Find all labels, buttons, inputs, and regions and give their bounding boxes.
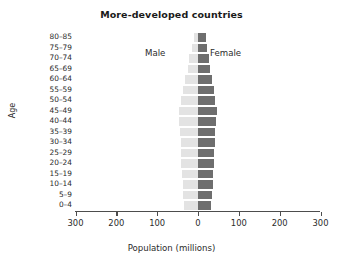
bar-female-30-34 xyxy=(198,137,216,148)
pyramid-row xyxy=(75,53,320,64)
bar-female-5-9 xyxy=(198,190,213,201)
bar-female-75-79 xyxy=(198,43,208,54)
bar-male-20-24 xyxy=(180,158,198,169)
y-tick-label: 70–74 xyxy=(12,53,72,64)
y-tick-label: 25–29 xyxy=(12,148,72,159)
x-tick-mark xyxy=(280,212,281,216)
y-tick-label: 15–19 xyxy=(12,169,72,180)
pyramid-row xyxy=(75,169,320,180)
bar-female-70-74 xyxy=(198,53,210,64)
y-tick-label: 30–34 xyxy=(12,137,72,148)
y-tick-label: 20–24 xyxy=(12,158,72,169)
y-tick-label: 50–54 xyxy=(12,95,72,106)
pyramid-row xyxy=(75,116,320,127)
series-label-female: Female xyxy=(210,48,241,58)
y-tick-label: 55–59 xyxy=(12,85,72,96)
x-tick-label: 200 xyxy=(260,218,300,228)
bar-female-80-85 xyxy=(198,32,207,43)
x-tick-mark xyxy=(239,212,240,216)
pyramid-row xyxy=(75,95,320,106)
pyramid-row xyxy=(75,85,320,96)
pyramid-row xyxy=(75,43,320,54)
y-tick-label: 5–9 xyxy=(12,190,72,201)
x-tick-label: 300 xyxy=(56,218,96,228)
y-tick-label: 60–64 xyxy=(12,74,72,85)
bar-female-60-64 xyxy=(198,74,213,85)
plot-area xyxy=(75,32,320,211)
x-axis-title: Population (millions) xyxy=(0,243,343,253)
bar-male-50-54 xyxy=(180,95,198,106)
bar-female-10-14 xyxy=(198,179,214,190)
x-tick-label: 0 xyxy=(178,218,218,228)
bar-male-35-39 xyxy=(179,127,198,138)
bar-male-5-9 xyxy=(182,190,198,201)
bar-female-45-49 xyxy=(198,106,218,117)
bar-male-25-29 xyxy=(180,148,198,159)
y-tick-label: 0–4 xyxy=(12,200,72,211)
bar-male-65-69 xyxy=(187,64,198,75)
bar-male-75-79 xyxy=(191,43,198,54)
y-tick-label: 10–14 xyxy=(12,179,72,190)
bar-female-15-19 xyxy=(198,169,214,180)
y-axis-tick-labels: 0–45–910–1415–1920–2425–2930–3435–3940–4… xyxy=(26,32,72,211)
x-tick-mark xyxy=(157,212,158,216)
chart-title: More-developed countries xyxy=(0,9,343,20)
y-tick-label: 40–44 xyxy=(12,116,72,127)
y-tick-label: 75–79 xyxy=(12,43,72,54)
x-tick-label: 100 xyxy=(219,218,259,228)
pyramid-row xyxy=(75,74,320,85)
x-tick-mark xyxy=(116,212,117,216)
x-tick-mark xyxy=(76,212,77,216)
bar-female-55-59 xyxy=(198,85,215,96)
pyramid-row xyxy=(75,148,320,159)
bar-male-45-49 xyxy=(178,106,198,117)
pyramid-row xyxy=(75,137,320,148)
y-tick-label: 65–69 xyxy=(12,64,72,75)
bar-male-0-4 xyxy=(183,200,198,211)
bar-male-30-34 xyxy=(180,137,198,148)
pyramid-row xyxy=(75,200,320,211)
x-tick-label: 300 xyxy=(301,218,341,228)
bar-female-65-69 xyxy=(198,64,211,75)
x-tick-label: 100 xyxy=(137,218,177,228)
bar-female-0-4 xyxy=(198,200,212,211)
pyramid-row xyxy=(75,64,320,75)
pyramid-row xyxy=(75,127,320,138)
x-tick-mark xyxy=(321,212,322,216)
series-label-male: Male xyxy=(145,48,165,58)
x-tick-mark xyxy=(198,212,199,216)
bar-male-40-44 xyxy=(178,116,198,127)
pyramid-row xyxy=(75,190,320,201)
y-tick-label: 80–85 xyxy=(12,32,72,43)
bar-female-25-29 xyxy=(198,148,215,159)
x-tick-label: 200 xyxy=(96,218,136,228)
pyramid-row xyxy=(75,32,320,43)
y-tick-label: 35–39 xyxy=(12,127,72,138)
bar-male-10-14 xyxy=(182,179,198,190)
pyramid-row xyxy=(75,179,320,190)
bar-male-55-59 xyxy=(182,85,198,96)
bar-male-15-19 xyxy=(181,169,198,180)
bar-female-40-44 xyxy=(198,116,217,127)
y-tick-label: 45–49 xyxy=(12,106,72,117)
bar-female-50-54 xyxy=(198,95,216,106)
population-pyramid-figure: More-developed countries Age 0–45–910–14… xyxy=(0,0,343,269)
bar-female-20-24 xyxy=(198,158,215,169)
bar-male-70-74 xyxy=(188,53,198,64)
pyramid-row xyxy=(75,158,320,169)
pyramid-row xyxy=(75,106,320,117)
bar-male-60-64 xyxy=(184,74,198,85)
bar-female-35-39 xyxy=(198,127,216,138)
